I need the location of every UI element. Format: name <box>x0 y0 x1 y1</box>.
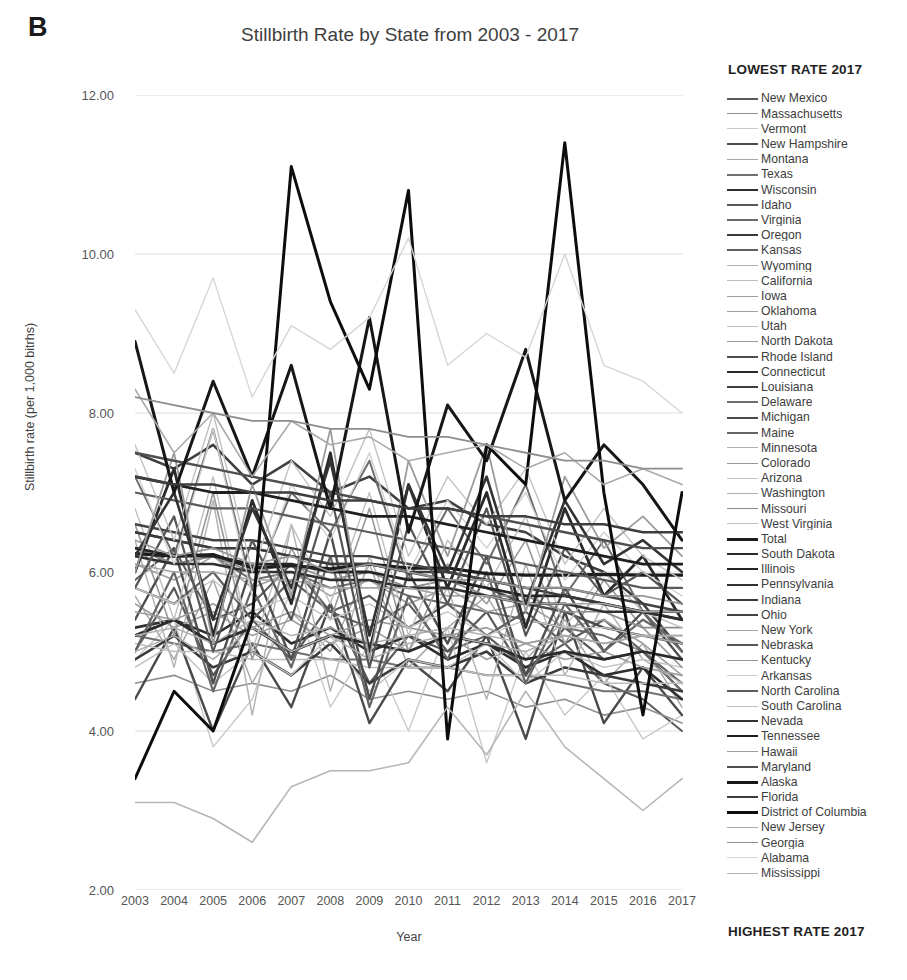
legend-item[interactable]: Massachusetts <box>724 106 904 121</box>
legend-item[interactable]: Delaware <box>724 395 904 410</box>
legend-item[interactable]: Iowa <box>724 288 904 303</box>
legend-item[interactable]: Missouri <box>724 501 904 516</box>
legend-item[interactable]: Florida <box>724 790 904 805</box>
legend-line-swatch-icon <box>727 842 758 843</box>
legend-item-label: Indiana <box>761 594 801 606</box>
legend-line-swatch-icon <box>727 356 758 358</box>
legend-item-label: Arkansas <box>761 670 812 682</box>
legend-item[interactable]: Kansas <box>724 243 904 258</box>
legend-item-label: New Mexico <box>761 92 827 104</box>
legend-item[interactable]: Ohio <box>724 607 904 622</box>
legend-item[interactable]: Georgia <box>724 835 904 850</box>
legend-item-label: Maryland <box>761 761 811 773</box>
legend-item[interactable]: Wisconsin <box>724 182 904 197</box>
legend-item[interactable]: North Carolina <box>724 683 904 698</box>
legend-line-swatch-icon <box>727 644 758 646</box>
legend-item[interactable]: District of Columbia <box>724 805 904 820</box>
legend-line-swatch-icon <box>727 371 758 373</box>
legend-item-label: Wyoming <box>761 260 812 272</box>
legend-item[interactable]: South Dakota <box>724 547 904 562</box>
y-axis-tick-labels: 12.0010.008.006.004.002.00 <box>60 95 126 890</box>
legend-item[interactable]: Indiana <box>724 592 904 607</box>
legend-item[interactable]: Pennsylvania <box>724 577 904 592</box>
legend-item[interactable]: Alabama <box>724 850 904 865</box>
legend-item[interactable]: Total <box>724 531 904 546</box>
legend-line-swatch-icon <box>727 493 758 494</box>
legend-item-label: Washington <box>761 487 825 499</box>
legend-item[interactable]: Colorado <box>724 456 904 471</box>
legend-item[interactable]: Virginia <box>724 213 904 228</box>
legend-line-swatch-icon <box>727 568 758 570</box>
legend-item-label: Georgia <box>761 837 804 849</box>
legend-item[interactable]: Montana <box>724 152 904 167</box>
legend-item[interactable]: Wyoming <box>724 258 904 273</box>
legend-header-lowest-rate: LOWEST RATE 2017 <box>728 62 862 77</box>
legend-item-label: Oregon <box>761 229 802 241</box>
figure-panel: B Stillbirth Rate by State from 2003 - 2… <box>0 0 907 980</box>
legend-item[interactable]: Kentucky <box>724 653 904 668</box>
legend-item-label: Kansas <box>761 244 802 256</box>
legend-item[interactable]: Vermont <box>724 121 904 136</box>
legend-item[interactable]: South Carolina <box>724 699 904 714</box>
legend-item[interactable]: New Mexico <box>724 91 904 106</box>
legend-line-swatch-icon <box>727 720 758 722</box>
x-tick-label: 2011 <box>434 894 461 908</box>
legend-item[interactable]: Arkansas <box>724 668 904 683</box>
legend-item[interactable]: Washington <box>724 486 904 501</box>
legend-item-label: Utah <box>761 320 787 332</box>
legend-line-swatch-icon <box>727 326 758 327</box>
y-tick-label: 6.00 <box>89 565 114 580</box>
legend-item-label: Alaska <box>761 776 798 788</box>
legend-item[interactable]: Utah <box>724 319 904 334</box>
legend-item-label: Idaho <box>761 199 792 211</box>
legend-line-swatch-icon <box>727 827 758 828</box>
legend-line-swatch-icon <box>727 432 758 434</box>
legend-item[interactable]: Idaho <box>724 197 904 212</box>
legend-item[interactable]: Oregon <box>724 228 904 243</box>
y-tick-label: 12.00 <box>81 88 114 103</box>
legend-line-swatch-icon <box>727 386 758 388</box>
legend-item[interactable]: Maryland <box>724 759 904 774</box>
legend-item[interactable]: Oklahoma <box>724 304 904 319</box>
legend-item[interactable]: Connecticut <box>724 364 904 379</box>
legend-item[interactable]: Rhode Island <box>724 349 904 364</box>
legend-line-swatch-icon <box>727 478 758 479</box>
legend-line-swatch-icon <box>727 584 758 586</box>
legend-item[interactable]: Louisiana <box>724 380 904 395</box>
legend-item[interactable]: Maine <box>724 425 904 440</box>
legend-item[interactable]: Nevada <box>724 714 904 729</box>
legend-item[interactable]: Mississippi <box>724 866 904 881</box>
legend-item[interactable]: North Dakota <box>724 334 904 349</box>
legend-item-label: Florida <box>761 791 798 803</box>
legend-item-label: Delaware <box>761 396 812 408</box>
y-tick-label: 10.00 <box>81 247 114 262</box>
legend-line-swatch-icon <box>727 599 758 601</box>
legend-item[interactable]: Nebraska <box>724 638 904 653</box>
legend-item[interactable]: New York <box>724 623 904 638</box>
legend-item-label: Total <box>761 533 787 545</box>
x-tick-label: 2015 <box>590 894 618 908</box>
legend-item[interactable]: West Virginia <box>724 516 904 531</box>
legend-item[interactable]: New Hampshire <box>724 137 904 152</box>
legend-item[interactable]: New Jersey <box>724 820 904 835</box>
legend-item[interactable]: Alaska <box>724 774 904 789</box>
legend: LOWEST RATE 2017 New MexicoMassachusetts… <box>724 62 904 962</box>
legend-item-label: Texas <box>761 168 793 180</box>
legend-item[interactable]: Arizona <box>724 471 904 486</box>
legend-item[interactable]: Hawaii <box>724 744 904 759</box>
legend-item-label: District of Columbia <box>761 806 867 818</box>
legend-line-swatch-icon <box>727 174 758 176</box>
legend-item-label: Louisiana <box>761 381 813 393</box>
legend-item[interactable]: Tennessee <box>724 729 904 744</box>
legend-item-label: Iowa <box>761 290 787 302</box>
legend-item[interactable]: Texas <box>724 167 904 182</box>
legend-line-swatch-icon <box>727 781 758 784</box>
legend-item[interactable]: California <box>724 273 904 288</box>
legend-item[interactable]: Michigan <box>724 410 904 425</box>
legend-item-label: Nevada <box>761 715 803 727</box>
legend-item-label: Alabama <box>761 852 809 864</box>
legend-item[interactable]: Minnesota <box>724 440 904 455</box>
legend-line-swatch-icon <box>727 735 758 737</box>
legend-item[interactable]: Illinois <box>724 562 904 577</box>
legend-item-label: Rhode Island <box>761 351 833 363</box>
